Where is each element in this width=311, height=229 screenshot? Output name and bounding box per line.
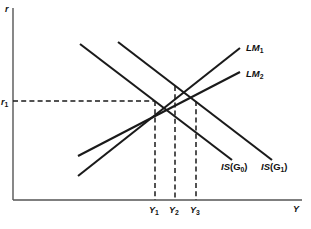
lm2-curve-label: LM2 xyxy=(246,68,264,80)
curve-labels-group: LM1 LM2 IS(G0) IS(G1) xyxy=(221,42,288,173)
is-lm-diagram: r Y r1 Y1 Y2 Y3 LM1 LM2 xyxy=(0,0,311,229)
lm2-curve xyxy=(78,72,240,156)
y1-subscript: 1 xyxy=(155,209,159,216)
lm1-subscript: 1 xyxy=(260,47,264,54)
x-tick-labels-group: Y1 Y2 Y3 xyxy=(149,205,200,216)
is-g0-open-paren: (G xyxy=(230,161,241,172)
is-g0-curve-label: IS(G0) xyxy=(221,161,248,173)
is-g1-open-paren: (G xyxy=(270,161,281,172)
lm2-base: LM xyxy=(246,68,261,79)
is-g1-curve-label: IS(G1) xyxy=(261,161,288,173)
is-g0-close-paren: ) xyxy=(244,161,247,172)
y3-subscript: 3 xyxy=(196,209,200,216)
y3-tick-label: Y3 xyxy=(190,205,200,216)
y-axis-label: r xyxy=(5,4,9,14)
lm1-curve-label: LM1 xyxy=(246,42,264,54)
svg-text:r1: r1 xyxy=(1,97,9,108)
lm1-base: LM xyxy=(246,42,261,53)
y2-subscript: 2 xyxy=(175,209,179,216)
x-axis-label: Y xyxy=(293,204,300,214)
diagram-canvas: r Y r1 Y1 Y2 Y3 LM1 LM2 xyxy=(0,0,311,229)
y1-tick-label: Y1 xyxy=(149,205,159,216)
is-g1-close-paren: ) xyxy=(284,161,287,172)
r1-tick-label: r1 xyxy=(1,97,9,108)
y2-tick-label: Y2 xyxy=(169,205,179,216)
lm1-curve xyxy=(78,48,240,176)
r1-subscript: 1 xyxy=(5,101,9,108)
lm2-subscript: 2 xyxy=(260,73,264,80)
is-g1-curve xyxy=(118,42,272,160)
